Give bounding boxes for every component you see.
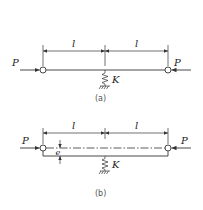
hinge-right-icon — [165, 67, 171, 73]
force-right-label: P — [180, 135, 188, 146]
hinge-left-icon — [40, 145, 46, 151]
spring-label: K — [111, 74, 120, 85]
force-right-label: P — [173, 57, 181, 68]
column-bar-eccentric — [43, 151, 168, 156]
spring-label: K — [111, 159, 120, 170]
hinge-right-icon — [165, 145, 171, 151]
span-right-label: l — [135, 120, 138, 131]
figure-a: l l P P K (a) — [11, 38, 191, 103]
diagram-canvas: l l P P K (a) l l — [0, 0, 203, 210]
eccentricity-label: e — [56, 148, 61, 157]
force-left-label: P — [11, 57, 19, 68]
span-left-label: l — [72, 120, 75, 131]
hinge-left-icon — [40, 67, 46, 73]
force-left-label: P — [21, 135, 29, 146]
spring-icon — [99, 156, 110, 174]
spring-icon — [99, 70, 110, 89]
figure-b: l l P P e K (b) — [20, 120, 191, 198]
span-right-label: l — [135, 38, 138, 49]
span-left-label: l — [72, 38, 75, 49]
caption-b: (b) — [95, 189, 106, 198]
caption-a: (a) — [95, 94, 106, 103]
